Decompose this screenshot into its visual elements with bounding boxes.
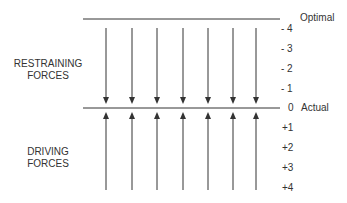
restraining-arrow <box>129 28 135 104</box>
driving-label-line-1: DRIVING <box>8 146 88 158</box>
optimal-label: Optimal <box>300 12 334 23</box>
restraining-arrow <box>180 28 186 104</box>
driving-forces-label: DRIVING FORCES <box>8 146 88 170</box>
arrowhead-down-icon <box>253 97 259 104</box>
driving-label-line-2: FORCES <box>8 158 88 170</box>
arrowhead-down-icon <box>180 97 186 104</box>
arrowhead-up-icon <box>154 112 160 119</box>
scale-plus-3: +3 <box>282 162 293 173</box>
restraining-arrow <box>205 28 211 104</box>
arrowhead-up-icon <box>103 112 109 119</box>
restraining-arrow <box>103 28 109 104</box>
restraining-arrow <box>230 28 236 104</box>
arrowhead-down-icon <box>103 97 109 104</box>
restraining-label-line-2: FORCES <box>8 70 88 82</box>
arrowhead-up-icon <box>230 112 236 119</box>
restraining-arrow <box>154 28 160 104</box>
restraining-arrow <box>253 28 259 104</box>
scale-minus-4: - 4 <box>281 23 293 34</box>
arrowhead-up-icon <box>180 112 186 119</box>
restraining-label-line-1: RESTRAINING <box>8 58 88 70</box>
scale-minus-2: - 2 <box>281 63 293 74</box>
force-field-diagram <box>0 0 347 203</box>
driving-arrow <box>129 112 135 190</box>
arrowhead-up-icon <box>129 112 135 119</box>
arrowhead-down-icon <box>230 97 236 104</box>
arrowhead-down-icon <box>129 97 135 104</box>
scale-plus-2: +2 <box>282 142 293 153</box>
scale-plus-4: +4 <box>282 182 293 193</box>
restraining-forces-label: RESTRAINING FORCES <box>8 58 88 82</box>
driving-arrow <box>205 112 211 190</box>
driving-arrow <box>154 112 160 190</box>
arrowhead-down-icon <box>154 97 160 104</box>
driving-arrow <box>103 112 109 190</box>
arrowhead-up-icon <box>205 112 211 119</box>
driving-arrow <box>253 112 259 190</box>
driving-arrow <box>180 112 186 190</box>
arrowhead-up-icon <box>253 112 259 119</box>
arrowhead-down-icon <box>205 97 211 104</box>
scale-minus-3: - 3 <box>281 43 293 54</box>
scale-minus-1: - 1 <box>281 83 293 94</box>
scale-plus-1: +1 <box>282 122 293 133</box>
actual-label: Actual <box>301 102 329 113</box>
scale-zero: 0 <box>288 102 294 113</box>
driving-arrow <box>230 112 236 190</box>
